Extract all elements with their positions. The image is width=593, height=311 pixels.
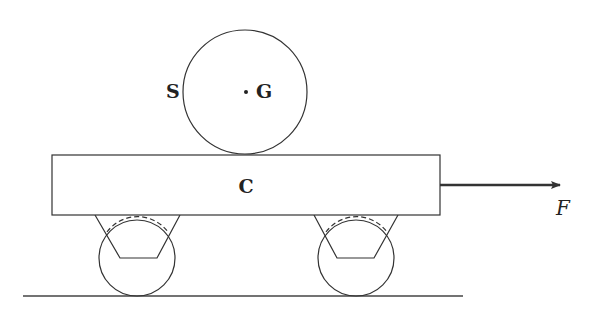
force-label: F	[555, 196, 571, 220]
cart-label: C	[238, 175, 253, 197]
center-label: G	[256, 80, 272, 102]
center-of-mass-point	[244, 90, 248, 94]
left-wheel	[95, 215, 180, 296]
right-wheel	[314, 215, 398, 296]
sphere-label: S	[166, 80, 180, 102]
cart-sphere-diagram: C G S F	[0, 0, 593, 311]
